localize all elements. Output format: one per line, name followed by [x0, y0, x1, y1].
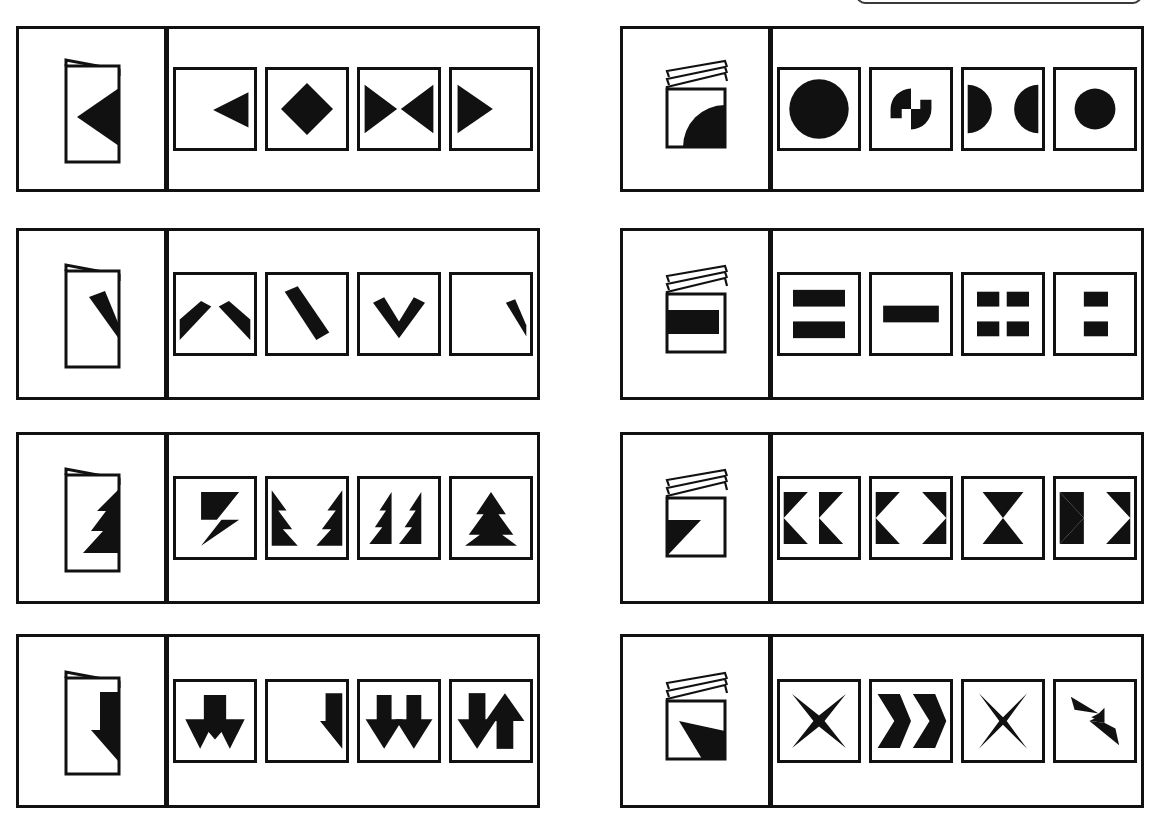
option-C[interactable] [357, 67, 441, 151]
shape-small-bar-br [1007, 321, 1029, 336]
option-B[interactable] [869, 476, 953, 560]
folded-paper-figure [647, 57, 745, 161]
test-sheet [0, 0, 1152, 837]
option-B[interactable] [869, 679, 953, 763]
option-C[interactable] [357, 476, 441, 560]
shape-half-tree-right [316, 490, 342, 546]
shape-wide-bar-top [793, 290, 845, 307]
option-A[interactable] [777, 476, 861, 560]
option-strip [771, 231, 1141, 397]
shape-chevron-v [373, 297, 425, 338]
problem-stem [623, 637, 771, 805]
option-D[interactable] [1053, 679, 1137, 763]
shape-four-point-star-tall [979, 693, 1027, 749]
shape-wide-bar-bottom [793, 321, 845, 338]
option-strip [167, 637, 537, 805]
option-A[interactable] [777, 679, 861, 763]
shape-wide-bar-center [883, 306, 939, 323]
shape-triangle-left [213, 92, 248, 127]
problem-panel[interactable] [620, 228, 1144, 400]
option-A[interactable] [173, 476, 257, 560]
option-A[interactable] [777, 272, 861, 356]
option-D[interactable] [1053, 272, 1137, 356]
option-C[interactable] [357, 679, 441, 763]
shape-zigzag-lower [1089, 721, 1119, 745]
option-C[interactable] [961, 67, 1045, 151]
shape-bowtie-d2 [1106, 492, 1130, 544]
problem-panel[interactable] [16, 432, 540, 604]
option-strip [167, 231, 537, 397]
option-C[interactable] [357, 272, 441, 356]
option-D[interactable] [449, 272, 533, 356]
folded-paper-figure [647, 262, 745, 366]
option-B[interactable] [265, 67, 349, 151]
option-B[interactable] [869, 272, 953, 356]
folded-paper-figure [647, 669, 745, 773]
shape-triangle-right [458, 85, 493, 133]
shape-half-tree-left [272, 490, 298, 546]
top-clipped-rounded-box [856, 0, 1142, 4]
shape-arrow-head-b [395, 719, 432, 749]
shape-small-bar-bl [977, 321, 999, 336]
shape-short-diagonal-bar [506, 299, 526, 336]
folded-paper-figure [53, 255, 131, 373]
shape-diagonal-bar-left [180, 301, 212, 340]
folded-paper-figure [647, 466, 745, 570]
problem-stem [623, 29, 771, 189]
shape-small-bar-tr [1007, 292, 1029, 307]
problem-stem [19, 435, 167, 601]
option-C[interactable] [961, 272, 1045, 356]
shape-chevron-right-b [913, 694, 946, 748]
shape-bowtie-right-edge [922, 492, 946, 544]
option-D[interactable] [1053, 476, 1137, 560]
shape-arrow-head-a [366, 719, 403, 749]
option-B[interactable] [869, 67, 953, 151]
shape-arrow-stem-a [377, 695, 392, 721]
problem-panel[interactable] [16, 228, 540, 400]
problem-stem [623, 231, 771, 397]
option-D[interactable] [449, 476, 533, 560]
problem-panel[interactable] [620, 432, 1144, 604]
option-strip [771, 435, 1141, 601]
option-C[interactable] [961, 679, 1045, 763]
problem-panel[interactable] [620, 634, 1144, 808]
shape-large-circle [789, 79, 848, 138]
shape-half-disc-left [968, 85, 992, 133]
shape-small-bar-tl [977, 292, 999, 307]
problem-stem [19, 231, 167, 397]
option-A[interactable] [173, 67, 257, 151]
shape-arrow-stem-b [406, 695, 421, 721]
shape-down-arrow-stem [469, 693, 486, 721]
option-strip [771, 29, 1141, 189]
shape-bowtie-left-b [819, 492, 843, 544]
problem-panel[interactable] [16, 26, 540, 192]
option-A[interactable] [173, 679, 257, 763]
shape-half-disc-right [1014, 85, 1038, 133]
option-C[interactable] [961, 476, 1045, 560]
option-B[interactable] [265, 272, 349, 356]
shape-quarter-disc-upper-left [891, 89, 911, 119]
problem-stem [19, 637, 167, 805]
shape-half-tree-b [399, 492, 421, 544]
option-D[interactable] [1053, 67, 1137, 151]
stem-shape-bar [667, 310, 719, 334]
option-B[interactable] [265, 679, 349, 763]
shape-triangle-right-left-edge [365, 85, 398, 133]
shape-long-diagonal-bar [285, 286, 330, 340]
shape-small-bar-bottom [1084, 321, 1108, 336]
shape-diagonal-bar-right [219, 301, 251, 340]
option-A[interactable] [173, 272, 257, 356]
problem-stem [623, 435, 771, 601]
folded-paper-figure [53, 50, 131, 168]
problem-panel[interactable] [620, 26, 1144, 192]
shape-diamond [281, 83, 333, 135]
option-D[interactable] [449, 67, 533, 151]
option-B[interactable] [265, 476, 349, 560]
shape-up-arrow-stem [497, 719, 514, 749]
problem-panel[interactable] [16, 634, 540, 808]
shape-down-arrow-head [458, 719, 497, 749]
shape-bowtie-left-edge [876, 492, 900, 544]
option-D[interactable] [449, 679, 533, 763]
folded-paper-figure [53, 459, 131, 577]
option-A[interactable] [777, 67, 861, 151]
